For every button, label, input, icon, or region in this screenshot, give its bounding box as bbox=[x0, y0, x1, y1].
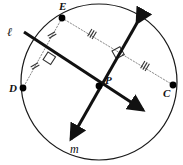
point-D[interactable] bbox=[20, 85, 27, 92]
solid-lines-group bbox=[24, 23, 143, 139]
line-m[interactable] bbox=[71, 23, 137, 139]
chord-EC bbox=[62, 18, 173, 85]
point-C[interactable] bbox=[170, 82, 177, 89]
right-angle-marker-line-l-chord-ED bbox=[43, 52, 55, 64]
geometry-canvas: EDCP ℓm bbox=[0, 0, 183, 165]
labeled-points-group: EDCP bbox=[8, 0, 176, 99]
line-label-line-l: ℓ bbox=[7, 25, 12, 39]
dotted-chords-group bbox=[23, 18, 173, 88]
point-label-E: E bbox=[58, 0, 66, 12]
right-angle-markers-group bbox=[43, 47, 124, 65]
point-label-D: D bbox=[8, 82, 17, 94]
point-P[interactable] bbox=[96, 83, 103, 90]
point-label-C: C bbox=[163, 87, 171, 99]
geometry-figure: EDCP ℓm bbox=[0, 0, 183, 165]
point-E[interactable] bbox=[59, 15, 66, 22]
line-label-line-m: m bbox=[70, 142, 79, 156]
point-label-P: P bbox=[105, 74, 112, 86]
